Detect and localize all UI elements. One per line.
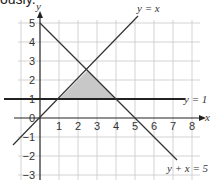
svg-text:8: 8 <box>189 120 195 132</box>
y-axis-arrow-icon <box>37 11 43 18</box>
svg-text:5: 5 <box>29 17 35 29</box>
svg-text:−2: −2 <box>22 150 35 162</box>
line-y-plus-x-equals-5 <box>40 23 177 160</box>
label-y-equals-1: y = 1 <box>183 93 207 105</box>
svg-text:3: 3 <box>29 55 35 67</box>
x-axis-label: x <box>204 111 210 123</box>
y-axis-label: y <box>35 0 41 12</box>
graph: 1 2 3 4 5 6 7 8 5 4 3 2 1 0 −1 −2 −3 y =… <box>0 0 213 194</box>
svg-text:5: 5 <box>132 120 138 132</box>
svg-text:−3: −3 <box>22 169 35 181</box>
svg-text:−1: −1 <box>22 131 35 143</box>
svg-text:1: 1 <box>29 93 35 105</box>
svg-text:2: 2 <box>29 74 35 86</box>
svg-text:2: 2 <box>75 120 81 132</box>
svg-text:0: 0 <box>29 112 35 124</box>
svg-text:7: 7 <box>170 120 176 132</box>
svg-text:3: 3 <box>94 120 100 132</box>
svg-text:1: 1 <box>56 120 62 132</box>
shaded-region <box>59 71 116 100</box>
svg-text:4: 4 <box>113 120 119 132</box>
svg-text:6: 6 <box>151 120 157 132</box>
label-y-equals-x: y = x <box>136 2 160 14</box>
label-y-plus-x-equals-5: y + x = 5 <box>166 162 209 174</box>
svg-text:4: 4 <box>29 36 35 48</box>
